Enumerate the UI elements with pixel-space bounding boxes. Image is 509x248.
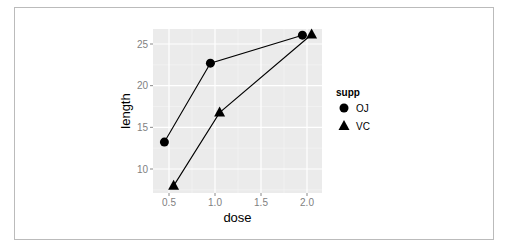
y-tick-label: 20 [137,80,149,91]
legend-label-oj: OJ [356,103,369,114]
legend-circle-icon [340,104,349,113]
y-axis-title: length [118,93,133,128]
y-tick-label: 15 [137,122,149,133]
x-axis-title: dose [223,210,251,225]
legend-triangle-icon [339,120,350,130]
data-point-circle [298,31,307,40]
legend-title: supp [336,87,360,98]
x-tick-label: 2.0 [300,197,314,208]
x-tick-label: 0.5 [162,197,176,208]
data-point-circle [206,59,215,68]
y-tick-label: 25 [137,39,149,50]
y-tick-label: 10 [137,164,149,175]
data-point-circle [160,138,169,147]
legend-label-vc: VC [356,121,370,132]
x-tick-label: 1.0 [208,197,222,208]
line-chart: 0.51.01.52.010152025doselengthsuppOJVC [0,0,509,248]
x-tick-label: 1.5 [254,197,268,208]
